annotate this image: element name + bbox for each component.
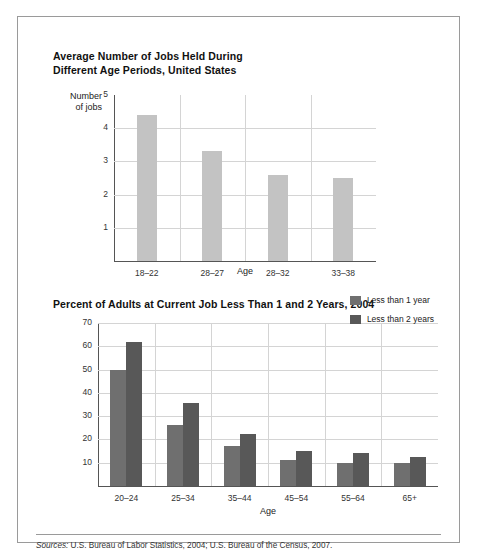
chart2-bar — [167, 425, 183, 486]
chart2-bar — [296, 451, 312, 486]
chart2-x-tick-label: 45–54 — [266, 493, 326, 503]
chart1-y-tick-label: 5 — [90, 89, 108, 99]
chart1-y-tick-label: 4 — [90, 122, 108, 132]
chart2-bar — [337, 463, 353, 486]
chart1-bar — [202, 151, 222, 261]
chart2-legend-item: Less than 2 years — [350, 314, 434, 324]
chart1-y-tick-label: 1 — [90, 222, 108, 232]
chart2-bar — [410, 457, 426, 486]
chart2-x-axis — [98, 486, 438, 487]
chart-average-jobs-held: Average Number of Jobs Held During Diffe… — [36, 35, 440, 280]
chart2-x-tick-label: 35–44 — [210, 493, 270, 503]
chart1-y-tick-label: 2 — [90, 189, 108, 199]
figure-frame: Average Number of Jobs Held During Diffe… — [17, 16, 460, 543]
chart2-y-tick-label: 60 — [74, 340, 92, 350]
chart1-plot-area: 1234518–2228–2728–3233–38 — [114, 95, 376, 261]
chart-percent-adults-current-job: Percent of Adults at Current Job Less Th… — [36, 285, 440, 525]
chart2-vertical-gridline — [211, 323, 212, 486]
chart2-y-tick-label: 20 — [74, 433, 92, 443]
chart2-bar — [183, 403, 199, 486]
chart2-x-tick-label: 25–34 — [153, 493, 213, 503]
chart2-x-tick-label: 55–64 — [323, 493, 383, 503]
source-value: U.S. Bureau of Labor Statistics, 2004; U… — [68, 541, 332, 550]
chart2-bar — [353, 453, 369, 486]
chart2-y-tick-label: 40 — [74, 387, 92, 397]
chart1-x-axis-title: Age — [114, 266, 376, 276]
chart1-bar — [268, 175, 288, 261]
chart2-y-axis — [98, 323, 99, 486]
figure-page: Average Number of Jobs Held During Diffe… — [0, 0, 477, 559]
chart2-legend-item: Less than 1 year — [350, 295, 434, 305]
chart2-plot-area: 1020304050607020–2425–3435–4445–5455–646… — [98, 323, 438, 486]
chart2-y-tick-label: 30 — [74, 410, 92, 420]
chart2-vertical-gridline — [155, 323, 156, 486]
source-note: Sources: U.S. Bureau of Labor Statistics… — [36, 541, 332, 550]
chart2-x-axis-title: Age — [98, 506, 438, 516]
chart1-bar — [137, 115, 157, 261]
chart2-x-tick-label: 20–24 — [96, 493, 156, 503]
footer-divider — [36, 534, 441, 535]
chart2-legend-swatch — [350, 296, 361, 305]
chart2-bar — [394, 463, 410, 486]
chart2-vertical-gridline — [381, 323, 382, 486]
chart1-y-axis — [114, 95, 115, 261]
chart2-y-tick-label: 10 — [74, 457, 92, 467]
chart2-legend-swatch — [350, 315, 361, 324]
chart1-y-tick-label: 3 — [90, 155, 108, 165]
chart2-y-tick-label: 70 — [74, 317, 92, 327]
chart1-title-line2: Different Age Periods, United States — [53, 63, 383, 77]
chart1-vertical-gridline — [311, 95, 312, 261]
chart1-title: Average Number of Jobs Held During Diffe… — [53, 49, 383, 77]
chart2-y-tick-label: 50 — [74, 364, 92, 374]
chart2-legend: Less than 1 yearLess than 2 years — [350, 295, 434, 333]
chart1-vertical-gridline — [180, 95, 181, 261]
source-label: Sources: — [36, 541, 68, 550]
chart2-bar — [110, 370, 126, 486]
chart2-bar — [280, 460, 296, 486]
chart2-bar — [126, 342, 142, 486]
chart2-vertical-gridline — [268, 323, 269, 486]
chart2-vertical-gridline — [325, 323, 326, 486]
chart1-vertical-gridline — [245, 95, 246, 261]
chart1-y-axis-label-line2: of jobs — [46, 102, 102, 113]
chart1-x-axis — [114, 261, 376, 262]
chart2-legend-label: Less than 2 years — [367, 314, 434, 324]
chart1-title-line1: Average Number of Jobs Held During — [53, 49, 383, 63]
chart2-bar — [240, 434, 256, 486]
chart2-bar — [224, 446, 240, 486]
chart2-x-tick-label: 65+ — [380, 493, 440, 503]
chart1-bar — [333, 178, 353, 261]
chart2-legend-label: Less than 1 year — [367, 295, 430, 305]
